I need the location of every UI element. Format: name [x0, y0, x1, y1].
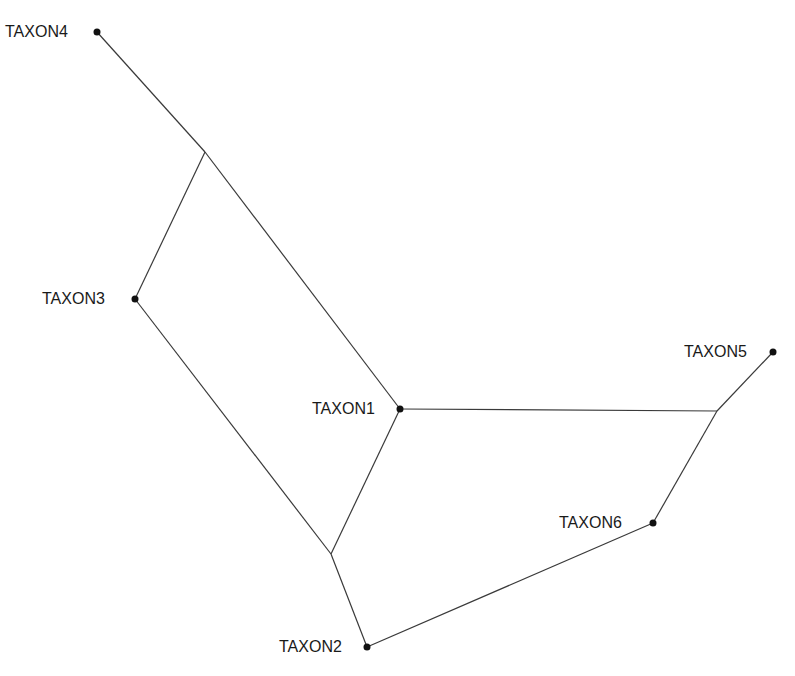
edge-n2-t1 — [331, 409, 400, 554]
edge-t1-n3 — [400, 409, 717, 411]
taxon-node-taxon3 — [132, 296, 139, 303]
taxon-label-taxon3: TAXON3 — [42, 291, 105, 307]
taxon-node-taxon6 — [650, 520, 657, 527]
taxon-label-taxon1: TAXON1 — [312, 401, 375, 417]
edge-t6-t2 — [367, 523, 653, 647]
edge-t4-n1 — [97, 32, 205, 152]
edge-n1-t1 — [205, 152, 400, 409]
taxon-node-taxon5 — [770, 349, 777, 356]
taxon-label-taxon5: TAXON5 — [684, 344, 747, 360]
edge-t3-n2 — [135, 299, 331, 554]
network-diagram — [0, 0, 795, 676]
edge-n2-t2 — [331, 554, 367, 647]
taxon-node-taxon2 — [364, 644, 371, 651]
taxon-label-taxon6: TAXON6 — [559, 515, 622, 531]
taxon-node-taxon4 — [94, 29, 101, 36]
taxon-label-taxon4: TAXON4 — [5, 24, 68, 40]
edge-n3-t6 — [653, 411, 717, 523]
edge-n3-t5 — [717, 352, 773, 411]
taxon-node-taxon1 — [397, 406, 404, 413]
taxon-label-taxon2: TAXON2 — [279, 639, 342, 655]
edge-n1-t3 — [135, 152, 205, 299]
